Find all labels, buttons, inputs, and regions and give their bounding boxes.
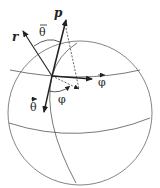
spherical-diagram: r p θ φ φ θ <box>0 0 160 188</box>
p-vector <box>52 20 66 76</box>
theta-vector <box>44 76 52 112</box>
meridian <box>50 43 77 183</box>
r-vector <box>23 31 52 76</box>
label-r: r <box>12 30 20 44</box>
label-phi-angle: φ <box>58 93 66 106</box>
phi-arc <box>49 86 70 92</box>
label-p: p <box>54 6 63 20</box>
label-phi-vec: φ <box>98 76 106 89</box>
latitude-equator <box>9 118 150 133</box>
p-projection-vertical <box>66 28 79 89</box>
label-theta-bar: θ <box>39 26 46 39</box>
label-theta-vec: θ <box>30 101 37 114</box>
phi-vector <box>52 76 92 79</box>
